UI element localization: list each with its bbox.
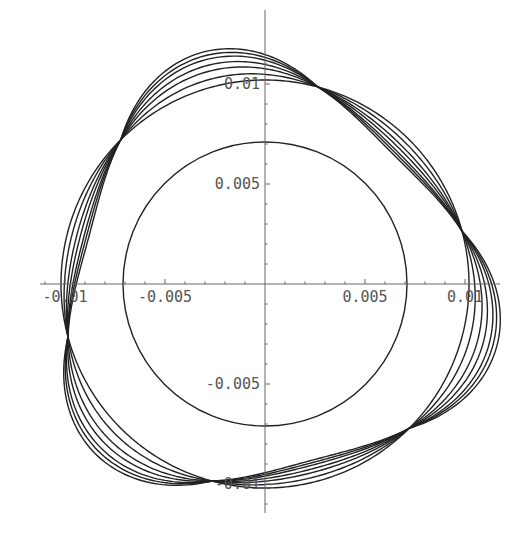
x-tick-label: -0.01: [42, 288, 87, 306]
y-tick-label: 0.01: [224, 75, 260, 93]
y-tick-label: -0.005: [206, 375, 260, 393]
lobed-curve-6: [64, 49, 501, 486]
x-tick-label: 0.005: [342, 288, 387, 306]
polar-curves-plot: -0.01-0.0050.0050.010.010.005-0.005-0.01: [0, 0, 529, 539]
curves-group: [61, 49, 500, 488]
y-tick-label: -0.01: [215, 475, 260, 493]
axes-group: -0.01-0.0050.0050.010.010.005-0.005-0.01: [40, 10, 500, 513]
x-tick-label: 0.01: [447, 288, 483, 306]
lobed-curve-4: [66, 56, 492, 482]
x-tick-label: -0.005: [138, 288, 192, 306]
y-tick-label: 0.005: [215, 175, 260, 193]
